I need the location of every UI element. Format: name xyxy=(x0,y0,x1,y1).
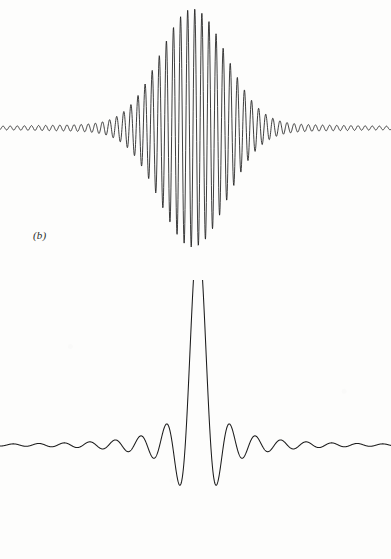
figure-sheet: (b) (c) xyxy=(0,0,391,559)
sinc-pulse-path xyxy=(0,280,391,485)
wave-panel-c: (c) xyxy=(0,280,391,559)
wave-packet-sinc-curve xyxy=(0,280,391,559)
panel-label-b: (b) xyxy=(33,229,46,241)
wave-packet-modulated-curve xyxy=(0,0,391,280)
wave-panel-b: (b) xyxy=(0,0,391,280)
modulated-wave-path xyxy=(0,9,391,247)
